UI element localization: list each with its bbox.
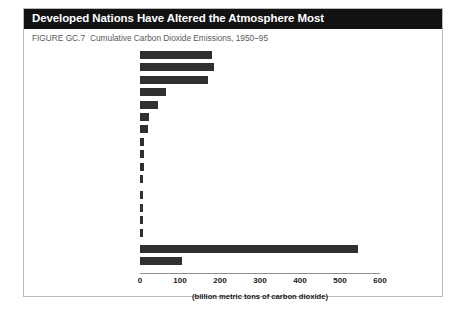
bar	[140, 257, 182, 265]
figure-number: FIGURE GC.7	[32, 33, 85, 43]
bar	[140, 76, 208, 84]
bar	[140, 150, 144, 158]
figure-caption: FIGURE GC.7Cumulative Carbon Dioxide Emi…	[32, 33, 268, 43]
bar	[140, 191, 143, 199]
x-axis-line	[140, 273, 380, 274]
bar	[140, 63, 214, 71]
bar-chart-plot-area: United StatesEuropean UnionFormer USSRCh…	[24, 49, 444, 297]
x-tick-label: 400	[293, 276, 306, 285]
bar	[140, 125, 148, 133]
x-axis-title: (billion metric tons of carbon dioxide)	[140, 292, 380, 301]
bar	[140, 88, 166, 96]
figure-title-bar: Developed Nations Have Altered the Atmos…	[24, 9, 442, 29]
bar	[140, 101, 158, 109]
x-tick-label: 200	[213, 276, 226, 285]
bar	[140, 216, 143, 224]
bar	[140, 113, 149, 121]
x-tick-label: 0	[138, 276, 142, 285]
x-tick-label: 600	[373, 276, 386, 285]
figure-frame: Developed Nations Have Altered the Atmos…	[23, 8, 443, 297]
figure-caption-text: Cumulative Carbon Dioxide Emissions, 195…	[90, 33, 268, 43]
bar	[140, 163, 144, 171]
x-tick-label: 100	[173, 276, 186, 285]
page-title: Developed Nations Have Altered the Atmos…	[32, 12, 324, 24]
bar	[140, 51, 212, 59]
bar	[140, 229, 143, 237]
x-tick-label: 500	[333, 276, 346, 285]
bar	[140, 245, 358, 253]
bar	[140, 204, 143, 212]
bar	[140, 175, 143, 183]
x-tick-label: 300	[253, 276, 266, 285]
bar	[140, 138, 144, 146]
